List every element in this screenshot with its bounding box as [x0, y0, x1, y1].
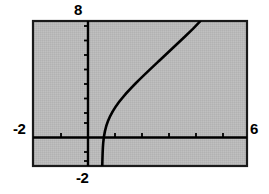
- x-min-label: -2: [13, 121, 25, 136]
- y-min-label: -2: [76, 170, 88, 185]
- x-max-label: 6: [250, 121, 258, 136]
- plot-background: [33, 21, 247, 166]
- plot-canvas: [0, 0, 269, 194]
- y-max-label: 8: [74, 2, 82, 17]
- graph-figure: 8 -2 6 -2: [0, 0, 269, 194]
